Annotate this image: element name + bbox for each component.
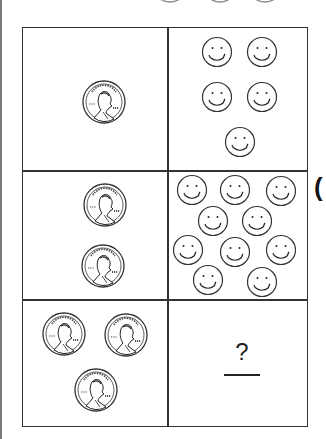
- smiley-icon: [248, 268, 277, 297]
- worksheet-art: [0, 0, 326, 439]
- penny-icon: [105, 314, 147, 356]
- penny-icon: [83, 81, 125, 123]
- cropped-top-shapes: [158, 0, 277, 2]
- penny-icon: [43, 313, 85, 355]
- penny-icon: [75, 369, 117, 411]
- smiley-icon: [248, 38, 277, 67]
- smiley-icon: [267, 236, 296, 265]
- smiley-icon: [174, 236, 203, 265]
- answer-blank-line: [224, 374, 260, 376]
- penny-icon: [84, 184, 126, 226]
- row-1-smileys: [203, 38, 277, 157]
- smiley-icon: [248, 83, 277, 112]
- row-3-pennies: [43, 313, 147, 411]
- smiley-icon: [178, 176, 207, 205]
- smiley-icon: [221, 176, 250, 205]
- smiley-icon: [199, 207, 228, 236]
- row-2-smileys: [174, 176, 296, 297]
- row-1-pennies: [83, 81, 125, 123]
- smiley-icon: [203, 83, 232, 112]
- penny-icon: [82, 245, 124, 287]
- smiley-icon: [194, 266, 223, 295]
- smiley-icon: [221, 238, 250, 267]
- smiley-icon: [226, 128, 255, 157]
- cropped-edge-glyph: (: [314, 172, 323, 203]
- smiley-icon: [267, 177, 296, 206]
- smiley-icon: [243, 207, 272, 236]
- smiley-icon: [203, 38, 232, 67]
- row-2-pennies: [82, 184, 126, 287]
- answer-question-mark: ?: [222, 338, 262, 366]
